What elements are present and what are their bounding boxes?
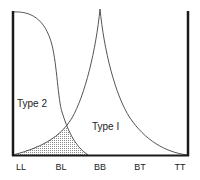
x-tick-tt: TT (175, 162, 186, 172)
overlap-shaded-region (13, 126, 88, 155)
x-tick-bt: BT (134, 162, 146, 172)
x-tick-bb: BB (94, 162, 106, 172)
x-tick-bl: BL (55, 162, 66, 172)
x-tick-ll: LL (16, 162, 26, 172)
type2-label: Type 2 (17, 98, 47, 109)
type2-curve (13, 12, 88, 155)
chart: Type 2 Type I LL BL BB BT TT (0, 0, 200, 180)
type1-label: Type I (92, 121, 119, 132)
type1-curve (13, 9, 187, 155)
